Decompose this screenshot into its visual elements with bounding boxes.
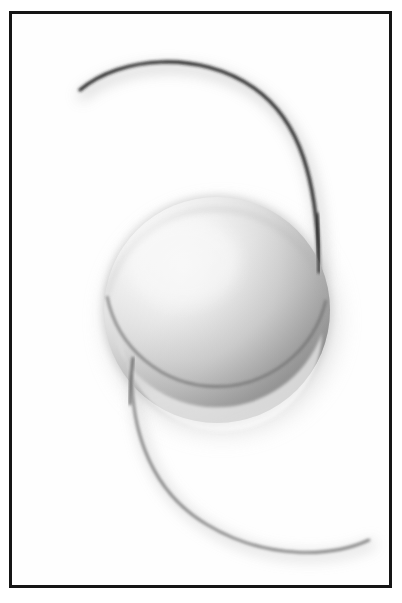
optic-specular-highlight: [127, 218, 239, 306]
intraocular-lens-illustration: [0, 0, 402, 603]
figure-root: [0, 0, 402, 603]
